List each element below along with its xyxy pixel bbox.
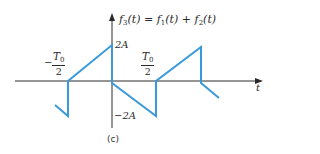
fraction-numerator: T0 — [52, 51, 65, 66]
fraction-denominator: 2 — [52, 66, 65, 77]
y-label-2a: 2A — [115, 40, 129, 50]
f1-argument: (t) — [165, 13, 178, 26]
fraction-numerator: T0 — [141, 51, 154, 66]
f2-argument: (t) — [203, 13, 216, 26]
t-subscript: 0 — [149, 56, 153, 64]
t-symbol: T — [142, 50, 149, 62]
function-label: f3(t) = f1(t) + f2(t) — [119, 14, 216, 27]
figure-caption: (c) — [107, 134, 119, 144]
x-label-pos-half-period: T0 2 — [141, 51, 154, 77]
t-axis-label: t — [256, 83, 260, 93]
t-symbol: T — [53, 50, 60, 62]
y-axis-arrow-icon — [109, 13, 115, 21]
y-label-neg-2a: −2A — [114, 111, 136, 121]
equals-sign: = — [141, 13, 157, 26]
plus-sign: + — [178, 13, 194, 26]
f3-argument: (t) — [128, 13, 141, 26]
x-label-neg-half-period: T0 2 — [52, 51, 65, 77]
fraction-denominator: 2 — [141, 66, 154, 77]
t-subscript: 0 — [60, 56, 64, 64]
